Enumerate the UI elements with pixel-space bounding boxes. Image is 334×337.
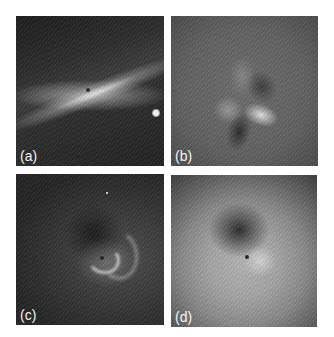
panel-d: (d) [171, 175, 317, 327]
image-noise [16, 16, 164, 166]
panel-label-d: (d) [175, 310, 192, 324]
image-noise [171, 175, 317, 327]
panel-label-a: (a) [20, 149, 37, 163]
panel-label-c: (c) [20, 308, 36, 322]
panel-b: (b) [171, 16, 318, 166]
image-noise [16, 174, 164, 325]
panel-a: (a) [16, 16, 164, 166]
panel-label-b: (b) [175, 149, 192, 163]
panel-c: (c) [16, 174, 164, 325]
image-noise [171, 16, 318, 166]
